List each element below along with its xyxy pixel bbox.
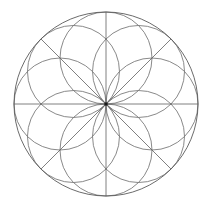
- center-point: [104, 102, 108, 106]
- rosette-figure: [0, 0, 214, 209]
